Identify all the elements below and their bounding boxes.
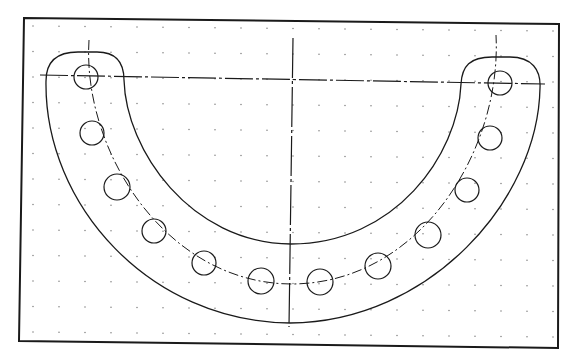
grid-dot	[162, 128, 164, 130]
grid-dot	[448, 55, 450, 57]
grid-dot	[474, 131, 476, 133]
grid-dot	[526, 285, 528, 287]
grid-dot	[240, 333, 242, 335]
grid-dot	[266, 104, 268, 106]
grid-dot	[448, 106, 450, 108]
grid-dot	[32, 229, 34, 231]
grid-dot	[396, 309, 398, 311]
grid-dot	[500, 234, 502, 236]
grid-dot	[188, 27, 190, 29]
grid-dot	[500, 208, 502, 210]
grid-dot	[318, 232, 320, 234]
grid-dot	[266, 180, 268, 182]
grid-dot	[292, 28, 294, 30]
grid-dot	[58, 25, 60, 27]
grid-dot	[474, 310, 476, 312]
background	[0, 0, 580, 361]
grid-dot	[474, 55, 476, 57]
grid-dot	[370, 130, 372, 132]
grid-dot	[526, 106, 528, 108]
grid-dot	[214, 180, 216, 182]
grid-dot	[58, 76, 60, 78]
grid-dot	[552, 209, 554, 211]
grid-dot	[32, 25, 34, 27]
grid-dot	[32, 280, 34, 282]
grid-dot	[32, 331, 34, 333]
grid-dot	[32, 127, 34, 129]
grid-dot	[318, 206, 320, 208]
grid-dot	[370, 207, 372, 209]
grid-dot	[526, 208, 528, 210]
grid-dot	[344, 283, 346, 285]
grid-dot	[266, 333, 268, 335]
grid-dot	[162, 332, 164, 334]
grid-dot	[188, 307, 190, 309]
grid-dot	[318, 257, 320, 259]
grid-dot	[500, 285, 502, 287]
grid-dot	[474, 233, 476, 235]
grid-dot	[240, 308, 242, 310]
grid-dot	[422, 258, 424, 260]
grid-dot	[370, 258, 372, 260]
grid-dot	[266, 308, 268, 310]
grid-dot	[214, 129, 216, 131]
grid-dot	[344, 207, 346, 209]
grid-dot	[422, 54, 424, 56]
grid-dot	[240, 257, 242, 259]
grid-dot	[448, 284, 450, 286]
grid-dot	[344, 232, 346, 234]
grid-dot	[396, 29, 398, 31]
grid-dot	[448, 157, 450, 159]
grid-dot	[396, 105, 398, 107]
grid-dot	[162, 281, 164, 283]
grid-dot	[162, 230, 164, 232]
grid-dot	[214, 333, 216, 335]
grid-dot	[136, 52, 138, 54]
grid-dot	[448, 310, 450, 312]
grid-dot	[84, 26, 86, 28]
grid-dot	[292, 155, 294, 157]
grid-dot	[84, 204, 86, 206]
grid-dot	[84, 332, 86, 334]
grid-dot	[422, 29, 424, 31]
grid-dot	[110, 230, 112, 232]
cad-drawing	[0, 0, 580, 361]
grid-dot	[370, 79, 372, 81]
grid-dot	[266, 206, 268, 208]
grid-dot	[110, 179, 112, 181]
grid-dot	[188, 333, 190, 335]
grid-dot	[526, 81, 528, 83]
grid-dot	[526, 183, 528, 185]
grid-dot	[500, 336, 502, 338]
grid-dot	[552, 56, 554, 58]
grid-dot	[136, 77, 138, 79]
grid-dot	[188, 256, 190, 258]
grid-dot	[448, 233, 450, 235]
grid-dot	[188, 103, 190, 105]
grid-dot	[448, 182, 450, 184]
grid-dot	[240, 27, 242, 29]
grid-dot	[58, 255, 60, 257]
grid-dot	[136, 307, 138, 309]
grid-dot	[292, 130, 294, 132]
grid-dot	[84, 102, 86, 104]
grid-dot	[448, 80, 450, 82]
grid-dot	[422, 309, 424, 311]
grid-dot	[292, 283, 294, 285]
grid-dot	[500, 81, 502, 83]
grid-dot	[84, 281, 86, 283]
grid-dot	[474, 29, 476, 31]
grid-dot	[526, 132, 528, 134]
grid-dot	[448, 335, 450, 337]
grid-dot	[240, 180, 242, 182]
grid-dot	[500, 157, 502, 159]
grid-dot	[422, 284, 424, 286]
grid-dot	[344, 309, 346, 311]
grid-dot	[474, 106, 476, 108]
grid-dot	[396, 233, 398, 235]
grid-dot	[396, 156, 398, 158]
grid-dot	[266, 129, 268, 131]
grid-dot	[344, 258, 346, 260]
grid-dot	[344, 334, 346, 336]
grid-dot	[58, 153, 60, 155]
